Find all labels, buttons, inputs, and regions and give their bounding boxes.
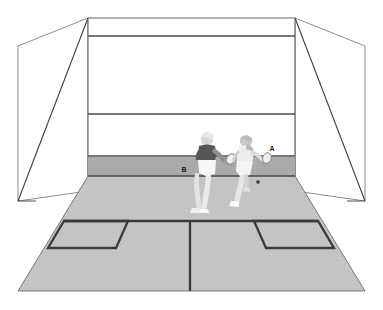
right-side-wall: [295, 18, 365, 201]
squash-court-diagram: B: [0, 0, 383, 310]
front-wall: [88, 18, 295, 176]
player-b-label: B: [181, 166, 186, 173]
player-b-shorts: [198, 160, 216, 176]
front-wall-surface: [88, 18, 295, 176]
squash-ball: [256, 180, 260, 184]
player-a-leg-back: [244, 174, 249, 189]
court-illustration: B: [0, 0, 383, 310]
front-wall-top-band: [88, 18, 295, 36]
player-a-label: A: [269, 145, 274, 152]
left-side-wall: [18, 18, 88, 201]
